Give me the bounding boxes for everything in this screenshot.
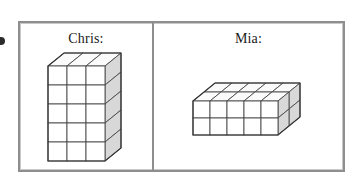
figure-frame: Chris: (18, 21, 345, 172)
cube-solid-mia-svg (182, 73, 304, 149)
figure-stage: Chris: (0, 0, 357, 181)
cube-solid-mia (182, 73, 304, 149)
cube-solid-chris-svg (47, 52, 129, 164)
cube-solid-chris (47, 52, 129, 164)
panel-mia: Mia: (154, 23, 343, 170)
panel-label-chris: Chris: (20, 31, 152, 47)
bullet-mark-icon (0, 37, 5, 45)
panel-chris: Chris: (20, 23, 152, 170)
panel-label-mia: Mia: (154, 31, 343, 47)
